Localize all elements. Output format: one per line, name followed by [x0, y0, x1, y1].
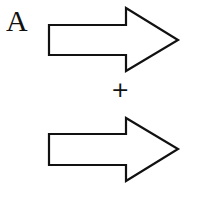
- arrows-canvas: [0, 0, 197, 206]
- plus-sign: +: [111, 79, 129, 101]
- arrow-bottom-icon: [49, 118, 178, 181]
- arrow-top-icon: [49, 8, 178, 71]
